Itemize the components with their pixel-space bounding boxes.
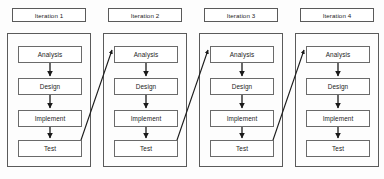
phase-label: Implement [323,115,354,122]
phase-label: Implement [131,115,162,122]
phase-label: Test [140,145,152,152]
phase-box-design-1: Design [18,78,82,95]
phase-label: Implement [35,115,66,122]
phase-label: Analysis [326,51,351,58]
iterative-lifecycle-diagram: Iteration 1 Iteration 2 Iteration 3 Iter… [0,0,384,179]
phase-label: Test [236,145,248,152]
phase-box-analysis-2: Analysis [114,46,178,63]
phase-box-test-2: Test [114,140,178,157]
feedback-arrow-1-to-2 [80,50,112,143]
phase-label: Design [136,83,157,90]
phase-box-design-4: Design [306,78,370,95]
phase-label: Analysis [230,51,255,58]
phase-box-test-1: Test [18,140,82,157]
feedback-arrow-2-to-3 [176,50,208,143]
phase-box-implement-3: Implement [210,110,274,127]
phase-label: Design [40,83,61,90]
phase-label: Analysis [38,51,63,58]
phase-label: Test [44,145,56,152]
phase-label: Analysis [134,51,159,58]
phase-box-test-4: Test [306,140,370,157]
phase-box-analysis-3: Analysis [210,46,274,63]
phase-label: Implement [227,115,258,122]
phase-box-implement-1: Implement [18,110,82,127]
feedback-arrow-3-to-4 [272,50,304,143]
phase-box-design-3: Design [210,78,274,95]
phase-box-implement-2: Implement [114,110,178,127]
phase-box-analysis-1: Analysis [18,46,82,63]
phase-label: Design [232,83,253,90]
phase-box-analysis-4: Analysis [306,46,370,63]
phase-box-test-3: Test [210,140,274,157]
phase-box-implement-4: Implement [306,110,370,127]
phase-label: Test [332,145,344,152]
phase-label: Design [328,83,349,90]
phase-box-design-2: Design [114,78,178,95]
